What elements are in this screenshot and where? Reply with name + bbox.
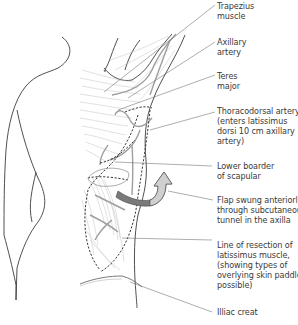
label-flap-swung: Flap swung anteriorly through subcutaneo… [217, 195, 298, 225]
vessels [90, 34, 176, 240]
label-line-of-resection: Line of resection of latissimus muscle, … [217, 240, 298, 290]
resection-dashed-line [85, 107, 152, 272]
label-iliac-crest: Illiac creat [217, 307, 258, 317]
left-body-outline [4, 37, 70, 300]
iliac-crest-outline [80, 276, 142, 287]
muscle-fibers [80, 36, 175, 270]
label-axillary-artery: Axillary artery [217, 37, 246, 57]
label-lower-border-scapula: Lower boarder of scapular [217, 161, 274, 181]
label-thoracodorsal-artery: Thoracodorsal artery (enters latissimus … [217, 106, 298, 146]
leader-lines [104, 5, 215, 312]
label-trapezius-muscle: Trapezius muscle [217, 1, 254, 21]
flap-rotation-arrow [116, 172, 172, 206]
label-teres-major: Teres major [217, 71, 240, 91]
